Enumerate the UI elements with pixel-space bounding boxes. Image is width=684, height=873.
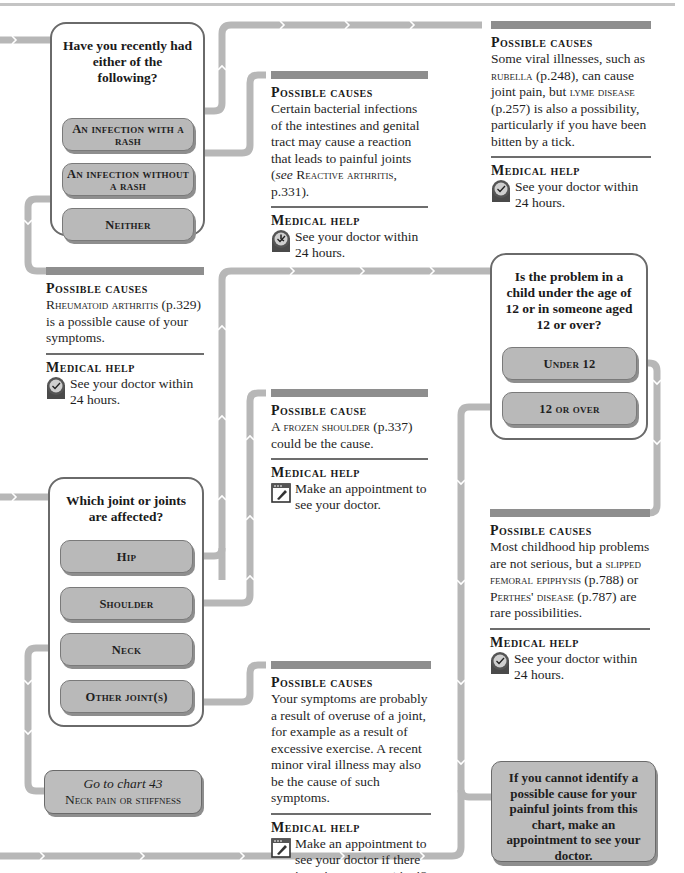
divider bbox=[491, 156, 651, 158]
info-frozen-shoulder: Possible cause A frozen shoulder (p.337)… bbox=[271, 389, 428, 513]
medical-help-heading: Medical help bbox=[271, 465, 428, 481]
info-header-bar bbox=[46, 267, 204, 275]
question-box-recent-infection: Have you recently had either of the foll… bbox=[50, 22, 205, 236]
clock-icon bbox=[271, 229, 291, 253]
possible-causes-heading: Possible causes bbox=[490, 523, 650, 539]
medical-help-text: See your doctor within 24 hours. bbox=[515, 179, 651, 211]
medical-help-text: Make an appointment to see your doctor. bbox=[295, 481, 428, 513]
question-box-age: Is the problem in a child under the age … bbox=[490, 253, 648, 440]
divider bbox=[46, 353, 204, 355]
info-childhood-hip: Possible causes Most childhood hip probl… bbox=[490, 509, 650, 683]
option-infection-with-rash[interactable]: An infection with a rash bbox=[62, 118, 194, 151]
info-header-bar bbox=[271, 389, 428, 397]
possible-causes-heading: Possible causes bbox=[271, 675, 431, 691]
option-shoulder[interactable]: Shoulder bbox=[60, 587, 193, 620]
divider bbox=[271, 206, 428, 208]
medical-help-heading: Medical help bbox=[491, 163, 651, 179]
medical-help-heading: Medical help bbox=[490, 635, 650, 651]
question-title: Is the problem in a child under the age … bbox=[502, 269, 636, 333]
option-neck[interactable]: Neck bbox=[60, 633, 193, 666]
goto-chart-title: Neck pain or stiffness bbox=[45, 792, 201, 808]
clock-icon bbox=[490, 651, 510, 675]
info-viral-illness: Possible causes Some viral illnesses, su… bbox=[491, 21, 651, 211]
rheumatoid-arthritis-link[interactable]: Rheumatoid arthritis bbox=[46, 297, 158, 312]
clock-icon bbox=[46, 376, 66, 400]
divider bbox=[271, 458, 428, 460]
option-neither[interactable]: Neither bbox=[62, 208, 194, 241]
divider bbox=[271, 813, 431, 815]
final-advice-box: If you cannot identify a possible cause … bbox=[491, 761, 656, 862]
possible-causes-heading: Possible causes bbox=[46, 281, 204, 297]
rubella-link[interactable]: rubella bbox=[491, 68, 533, 83]
possible-causes-text: Most childhood hip problems are not seri… bbox=[490, 539, 650, 622]
clock-icon bbox=[491, 179, 511, 203]
info-header-bar bbox=[491, 21, 651, 29]
possible-causes-text: Some viral illnesses, such as rubella (p… bbox=[491, 51, 651, 150]
medical-help-text: See your doctor within 24 hours. bbox=[295, 229, 428, 261]
info-header-bar bbox=[490, 509, 650, 517]
info-overuse: Possible causes Your symptoms are probab… bbox=[271, 661, 431, 873]
path-shoulder bbox=[200, 393, 266, 603]
info-header-bar bbox=[271, 71, 428, 79]
option-under-12[interactable]: Under 12 bbox=[502, 347, 637, 380]
perthes-disease-link[interactable]: Perthes' disease bbox=[490, 589, 574, 604]
medical-help-heading: Medical help bbox=[271, 820, 431, 836]
path-neither bbox=[28, 199, 52, 271]
possible-causes-heading: Possible causes bbox=[491, 35, 651, 51]
medical-help-heading: Medical help bbox=[46, 360, 204, 376]
medical-help-text: See your doctor within 24 hours. bbox=[514, 651, 650, 683]
info-reactive-arthritis: Possible causes Certain bacterial infect… bbox=[271, 71, 428, 261]
info-rheumatoid-arthritis: Possible causes Rheumatoid arthritis (p.… bbox=[46, 267, 204, 408]
question-box-which-joint: Which joint or joints are affected? Hip … bbox=[48, 477, 204, 727]
frozen-shoulder-link[interactable]: A frozen shoulder bbox=[271, 419, 370, 434]
goto-chart-43-button[interactable]: Go to chart 43 Neck pain or stiffness bbox=[44, 770, 202, 814]
reactive-arthritis-link[interactable]: Reactive arthritis bbox=[296, 167, 393, 182]
path-other bbox=[200, 665, 266, 702]
option-12-or-over[interactable]: 12 or over bbox=[502, 392, 637, 425]
possible-causes-text: Certain bacterial infections of the inte… bbox=[271, 101, 428, 200]
goto-chart-label: Go to chart 43 bbox=[45, 776, 201, 792]
possible-causes-heading: Possible causes bbox=[271, 85, 428, 101]
question-title: Have you recently had either of the foll… bbox=[62, 38, 193, 86]
appointment-book-icon bbox=[271, 481, 291, 505]
page-top-rule bbox=[0, 3, 675, 6]
divider bbox=[490, 628, 650, 630]
possible-cause-text: A frozen shoulder (p.337) could be the c… bbox=[271, 419, 428, 452]
option-other-joints[interactable]: Other joint(s) bbox=[60, 680, 193, 713]
medical-help-heading: Medical help bbox=[271, 213, 428, 229]
final-advice-text: If you cannot identify a possible cause … bbox=[498, 770, 649, 863]
medical-help-text: Make an appointment to see your doctor i… bbox=[295, 836, 431, 873]
lyme-disease-link[interactable]: lyme disease bbox=[570, 84, 635, 99]
info-header-bar bbox=[271, 661, 431, 669]
possible-cause-heading: Possible cause bbox=[271, 403, 428, 419]
option-infection-without-rash[interactable]: An infection without a rash bbox=[62, 163, 194, 196]
question-title: Which joint or joints are affected? bbox=[60, 493, 192, 525]
possible-causes-text: Rheumatoid arthritis (p.329) is a possib… bbox=[46, 297, 204, 347]
appointment-book-icon bbox=[271, 836, 291, 860]
path-without-rash bbox=[203, 75, 266, 153]
possible-causes-text: Your symptoms are probably a result of o… bbox=[271, 691, 431, 807]
option-hip[interactable]: Hip bbox=[60, 540, 193, 573]
medical-help-text: See your doctor within 24 hours. bbox=[70, 376, 204, 408]
